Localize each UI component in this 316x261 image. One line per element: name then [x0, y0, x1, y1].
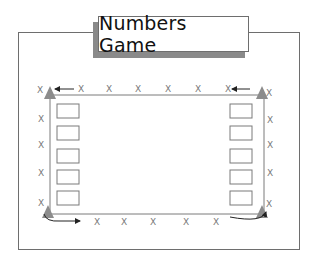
box: [230, 170, 252, 184]
box: [57, 191, 79, 205]
x-marker: X: [267, 168, 273, 178]
x-marker: X: [37, 85, 43, 95]
x-marker: X: [38, 198, 44, 208]
box: [230, 104, 252, 118]
box: [230, 126, 252, 140]
x-marker: X: [121, 217, 127, 227]
left-boxes: [57, 104, 79, 205]
box: [57, 170, 79, 184]
x-marker: X: [225, 84, 231, 94]
box: [57, 104, 79, 118]
x-marker: X: [38, 114, 44, 124]
x-marker: X: [267, 115, 273, 125]
field-diagram: X X X X X X X X X X X X X X X X X X X X …: [0, 0, 316, 261]
box: [57, 126, 79, 140]
x-marker: X: [267, 140, 273, 150]
x-marker: X: [183, 217, 189, 227]
x-marker: X: [38, 140, 44, 150]
x-marker: X: [266, 88, 272, 98]
x-marker: X: [213, 217, 219, 227]
x-marker: X: [135, 84, 141, 94]
x-marker: X: [78, 84, 84, 94]
box: [230, 149, 252, 163]
x-marker: X: [165, 84, 171, 94]
box: [230, 191, 252, 205]
right-boxes: [230, 104, 252, 205]
x-marker: X: [94, 217, 100, 227]
x-marker: X: [266, 199, 272, 209]
cone-icon: [44, 86, 56, 99]
x-marker: X: [150, 217, 156, 227]
box: [57, 149, 79, 163]
x-marker: X: [38, 168, 44, 178]
x-marker: X: [106, 84, 112, 94]
x-marker: X: [195, 84, 201, 94]
numbers-game-diagram: Numbers Game: [0, 0, 316, 261]
